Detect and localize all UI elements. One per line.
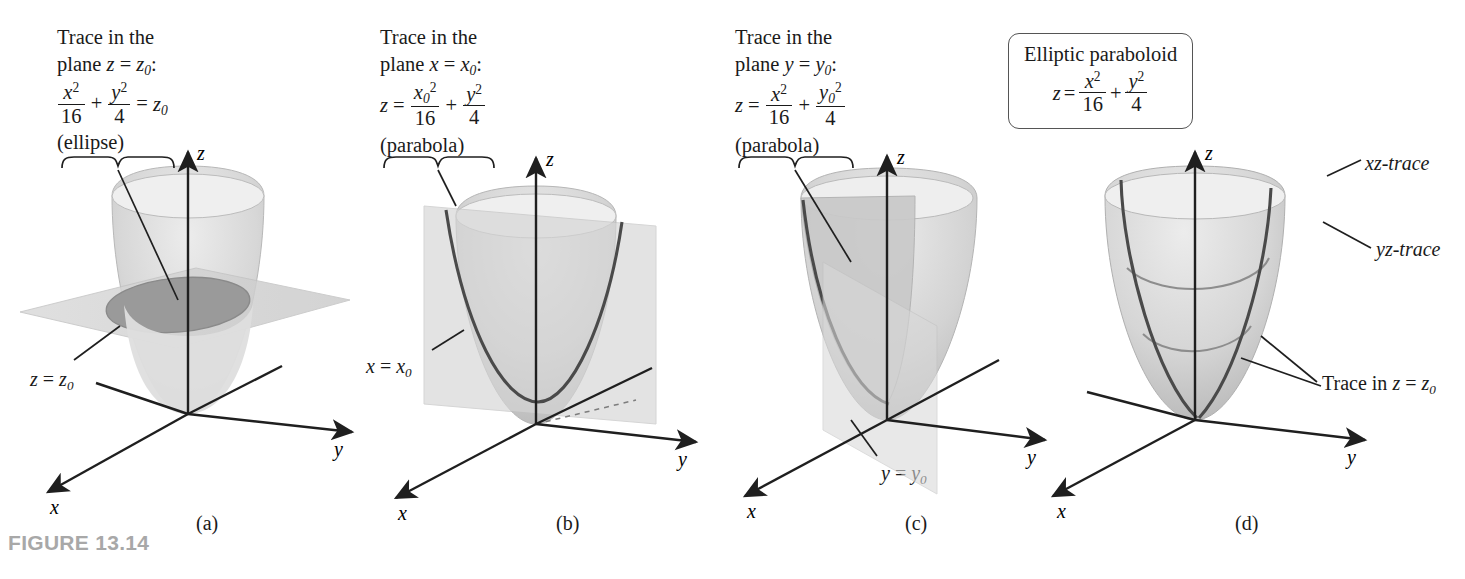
caption-d: (d) xyxy=(1235,512,1258,535)
axis-label-x-b: x xyxy=(397,502,407,524)
diagram-d: z y x xyxy=(1065,0,1465,579)
axis-label-z-a: z xyxy=(196,142,205,164)
diagram-a: z y x xyxy=(0,0,360,579)
axis-label-x-a: x xyxy=(49,496,59,518)
axis-label-y-a: y xyxy=(332,438,343,461)
axis-label-z-d: z xyxy=(1204,142,1213,164)
panel-a: Trace in the plane z = z0: x2 16 + y2 4 … xyxy=(0,0,360,579)
caption-b: (b) xyxy=(556,512,579,535)
axis-label-z-c: z xyxy=(896,146,905,168)
figure-label: FIGURE 13.14 xyxy=(8,531,149,555)
diagram-b: z y x xyxy=(360,0,715,579)
caption-a: (a) xyxy=(196,512,218,535)
axis-label-x-c: x xyxy=(746,500,756,522)
panel-d: Elliptic paraboloid z = x2 16 + y2 4 xz-… xyxy=(1065,0,1465,579)
panel-b: Trace in the plane x = x0: z = x02 16 + … xyxy=(360,0,715,579)
axis-label-y-c: y xyxy=(1025,446,1036,469)
axis-label-y-b: y xyxy=(676,448,687,471)
caption-c: (c) xyxy=(905,512,927,535)
axis-label-y-d: y xyxy=(1345,446,1356,469)
axis-label-z-b: z xyxy=(545,148,554,170)
axis-label-x-d: x xyxy=(1056,500,1066,522)
